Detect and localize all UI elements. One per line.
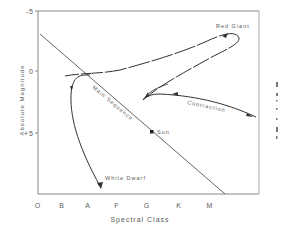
x-tick-label: O	[35, 202, 41, 209]
arrow-icon	[145, 92, 149, 97]
hr-diagram: -5 0 +5 Absolute Magnitude O B A F G K M…	[0, 0, 281, 228]
sun-marker	[150, 130, 154, 134]
arrow-icon	[97, 182, 103, 189]
sun-label: Sun	[157, 129, 170, 135]
white-dwarf-label: White Dwarf	[105, 175, 146, 181]
x-axis-ticks: O B A F G K M	[35, 202, 214, 209]
red-giant-label: Red Giant	[216, 23, 250, 29]
y-axis-ticks: -5 0 +5	[24, 8, 38, 137]
y-tick-label: -5	[26, 8, 34, 15]
x-tick-label: B	[59, 202, 65, 209]
x-tick-label: K	[176, 202, 182, 209]
main-sequence-line	[40, 34, 225, 194]
inner-loop-track	[143, 84, 168, 100]
main-sequence-label: Main Sequence	[91, 84, 134, 122]
x-tick-label: M	[207, 202, 214, 209]
contraction-label: Contraction	[187, 99, 227, 113]
x-tick-label: G	[144, 202, 150, 209]
red-giant-loop-track	[65, 34, 239, 76]
x-axis-label: Spectral Class	[110, 216, 169, 224]
y-tick-label: +5	[24, 130, 34, 137]
arrow-icon	[70, 86, 73, 91]
y-tick-label: 0	[29, 68, 34, 75]
x-tick-label: F	[114, 202, 119, 209]
x-tick-label: A	[85, 202, 91, 209]
edge-marks	[276, 82, 278, 139]
y-axis-label: Absolute Magnitude	[19, 64, 25, 135]
